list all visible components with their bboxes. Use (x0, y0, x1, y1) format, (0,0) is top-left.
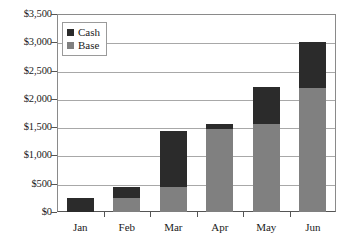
chart-legend: CashBase (62, 22, 107, 56)
bar-segment-cash[interactable] (299, 42, 326, 87)
bar-group[interactable] (299, 42, 326, 212)
bar-group[interactable] (206, 124, 233, 212)
stacked-bar-chart: $3,500$3,000$2,500$2,000$1,500$1,000$500… (0, 0, 346, 245)
bar-segment-base[interactable] (160, 187, 187, 212)
legend-item[interactable]: Base (67, 39, 100, 52)
legend-swatch-icon (67, 29, 74, 36)
x-axis-tick-mark (243, 212, 244, 217)
y-axis-tick-mark (51, 71, 57, 72)
y-axis-tick-label: $1,500 (0, 122, 52, 132)
bar-segment-base[interactable] (206, 129, 233, 212)
y-axis-tick-label: $500 (0, 179, 52, 189)
legend-item-label: Base (78, 40, 99, 51)
y-axis-tick-mark (51, 155, 57, 156)
legend-item-label: Cash (78, 27, 100, 38)
y-axis-tick-mark (51, 42, 57, 43)
bar-segment-cash[interactable] (253, 87, 280, 124)
bar-group[interactable] (67, 198, 94, 212)
bar-segment-base[interactable] (113, 198, 140, 212)
y-axis-tick-mark (51, 99, 57, 100)
y-axis-tick-label: $2,500 (0, 66, 52, 76)
x-axis-tick-mark (290, 212, 291, 217)
bar-segment-cash[interactable] (67, 198, 94, 212)
y-axis-tick-mark (51, 184, 57, 185)
x-axis-tick-mark (150, 212, 151, 217)
y-axis-tick-label: $2,000 (0, 94, 52, 104)
y-axis-tick-label: $3,000 (0, 37, 52, 47)
legend-swatch-icon (67, 42, 74, 49)
bar-segment-base[interactable] (253, 124, 280, 212)
bar-group[interactable] (253, 87, 280, 212)
bar-segment-cash[interactable] (160, 131, 187, 186)
bar-segment-cash[interactable] (113, 187, 140, 198)
x-axis-tick-mark (104, 212, 105, 217)
bar-group[interactable] (160, 131, 187, 212)
y-axis-tick-mark (51, 212, 57, 213)
legend-item[interactable]: Cash (67, 26, 100, 39)
y-axis-tick-label: $0 (0, 207, 52, 217)
y-axis-tick-mark (51, 127, 57, 128)
bar-segment-base[interactable] (299, 88, 326, 212)
x-axis-tick-mark (197, 212, 198, 217)
y-axis-tick-mark (51, 14, 57, 15)
y-axis-tick-label: $1,000 (0, 150, 52, 160)
x-axis-tick-label: Jun (283, 221, 343, 233)
bar-group[interactable] (113, 187, 140, 212)
y-axis-tick-label: $3,500 (0, 9, 52, 19)
